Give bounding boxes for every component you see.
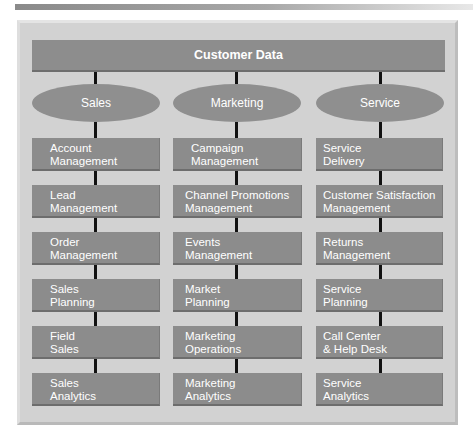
connector bbox=[235, 72, 238, 84]
box-line: Order bbox=[50, 236, 159, 249]
box-events-management: Events Management bbox=[173, 232, 302, 265]
box-line: Account bbox=[50, 142, 159, 155]
box-service-planning: Service Planning bbox=[316, 279, 443, 312]
column-label: Service bbox=[360, 96, 400, 110]
box-line: Lead bbox=[50, 189, 159, 202]
box-sales-analytics: Sales Analytics bbox=[32, 373, 160, 406]
column-label: Marketing bbox=[211, 96, 264, 110]
box-channel-promotions-management: Channel Promotions Management bbox=[173, 185, 302, 218]
box-line: Management bbox=[50, 202, 159, 215]
box-account-management: Account Management bbox=[32, 138, 160, 171]
box-returns-management: Returns Management bbox=[316, 232, 443, 265]
box-line: Service bbox=[323, 283, 442, 296]
box-call-center-help-desk: Call Center & Help Desk bbox=[316, 326, 443, 359]
box-line: Sales bbox=[50, 283, 159, 296]
box-line: Operations bbox=[185, 343, 301, 356]
column-header-marketing: Marketing bbox=[173, 84, 301, 122]
box-line: Campaign bbox=[191, 142, 301, 155]
box-line: Management bbox=[323, 249, 442, 262]
box-line: Returns bbox=[323, 236, 442, 249]
box-line: Planning bbox=[185, 296, 301, 309]
box-line: Market bbox=[185, 283, 301, 296]
box-lead-management: Lead Management bbox=[32, 185, 160, 218]
box-line: Customer Satisfaction bbox=[323, 189, 442, 202]
box-line: Planning bbox=[50, 296, 159, 309]
box-sales-planning: Sales Planning bbox=[32, 279, 160, 312]
box-line: Management bbox=[50, 155, 159, 168]
box-line: Management bbox=[185, 202, 301, 215]
customer-data-header: Customer Data bbox=[32, 40, 445, 72]
box-line: & Help Desk bbox=[323, 343, 442, 356]
column-header-service: Service bbox=[316, 84, 444, 122]
box-line: Management bbox=[185, 249, 301, 262]
box-line: Sales bbox=[50, 377, 159, 390]
box-service-delivery: Service Delivery bbox=[316, 138, 443, 171]
column-label: Sales bbox=[81, 96, 111, 110]
box-line: Analytics bbox=[50, 390, 159, 403]
connector bbox=[94, 72, 97, 84]
box-line: Marketing bbox=[185, 330, 301, 343]
box-order-management: Order Management bbox=[32, 232, 160, 265]
box-marketing-analytics: Marketing Analytics bbox=[173, 373, 302, 406]
box-campaign-management: Campaign Management bbox=[173, 138, 302, 171]
box-line: Management bbox=[191, 155, 301, 168]
box-line: Analytics bbox=[185, 390, 301, 403]
top-divider-rule bbox=[15, 4, 473, 10]
box-line: Service bbox=[323, 377, 442, 390]
box-line: Planning bbox=[323, 296, 442, 309]
box-service-analytics: Service Analytics bbox=[316, 373, 443, 406]
box-customer-satisfaction-management: Customer Satisfaction Management bbox=[316, 185, 443, 218]
box-marketing-operations: Marketing Operations bbox=[173, 326, 302, 359]
box-line: Field bbox=[50, 330, 159, 343]
box-line: Analytics bbox=[323, 390, 442, 403]
column-header-sales: Sales bbox=[32, 84, 160, 122]
box-market-planning: Market Planning bbox=[173, 279, 302, 312]
box-line: Service bbox=[323, 142, 442, 155]
connector bbox=[379, 72, 382, 84]
box-line: Channel Promotions bbox=[185, 189, 301, 202]
box-field-sales: Field Sales bbox=[32, 326, 160, 359]
box-line: Management bbox=[323, 202, 442, 215]
box-line: Call Center bbox=[323, 330, 442, 343]
box-line: Marketing bbox=[185, 377, 301, 390]
customer-data-label: Customer Data bbox=[194, 48, 283, 62]
box-line: Sales bbox=[50, 343, 159, 356]
box-line: Events bbox=[185, 236, 301, 249]
box-line: Delivery bbox=[323, 155, 442, 168]
box-line: Management bbox=[50, 249, 159, 262]
